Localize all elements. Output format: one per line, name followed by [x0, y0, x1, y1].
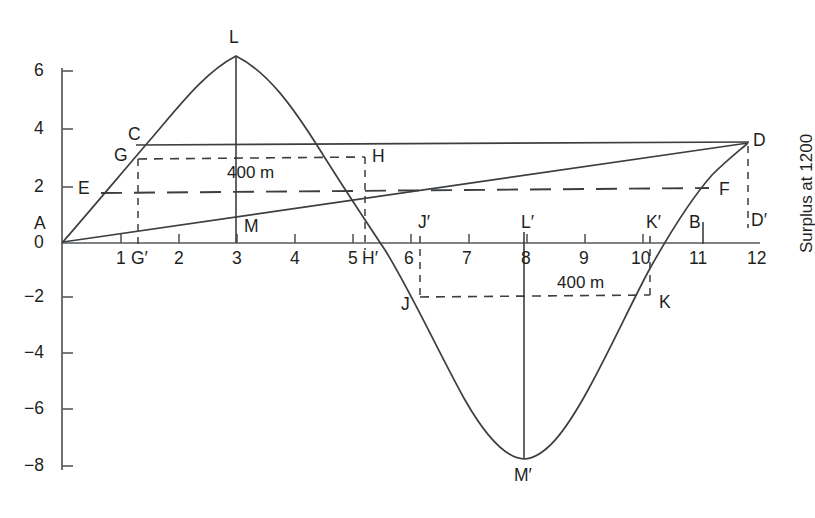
point-label-H: H	[372, 148, 385, 166]
y-tick-label-4: 4	[34, 120, 44, 138]
x-axis-ticks	[121, 234, 643, 243]
point-label-L: L	[229, 29, 239, 47]
y-tick-label-minus6: −6	[24, 400, 44, 418]
x-tick-label-9: 9	[579, 250, 589, 268]
point-label-H-prime: H′	[362, 250, 378, 268]
x-tick-label-12: 12	[747, 250, 766, 268]
point-label-M-prime: M′	[514, 467, 532, 485]
figure-root: 6 4 2 0 −2 −4 −6 −8 1 2 3 4 5 6 7 8 9 10…	[0, 0, 815, 518]
point-label-D-prime: D′	[751, 212, 767, 230]
point-label-B: B	[689, 214, 701, 232]
point-label-D: D	[753, 132, 766, 150]
point-label-G: G	[114, 147, 128, 165]
line-GH-dashed	[138, 157, 365, 159]
line-JK-dashed	[420, 295, 650, 297]
y-tick-label-minus4: −4	[24, 344, 44, 362]
x-tick-label-10: 10	[631, 250, 650, 268]
x-tick-label-8: 8	[521, 250, 531, 268]
point-label-E: E	[78, 180, 90, 198]
x-tick-label-11: 11	[689, 250, 707, 268]
point-label-F: F	[719, 181, 730, 199]
x-tick-label-1: 1	[116, 250, 126, 268]
annotation-400m-upper: 400 m	[227, 164, 274, 181]
annotation-400m-lower: 400 m	[557, 274, 604, 291]
point-label-L-prime: L′	[521, 214, 534, 232]
y-tick-label-0: 0	[34, 234, 44, 252]
x-tick-label-4: 4	[290, 250, 300, 268]
y-tick-label-2: 2	[34, 178, 44, 196]
y-tick-label-6: 6	[34, 62, 44, 80]
point-label-K: K	[659, 294, 671, 312]
point-label-C: C	[128, 126, 141, 144]
line-CD	[136, 142, 749, 145]
x-tick-label-3: 3	[232, 250, 242, 268]
point-label-J-prime: J′	[418, 214, 430, 232]
x-tick-label-7: 7	[462, 250, 472, 268]
y-tick-label-minus8: −8	[24, 457, 44, 475]
point-label-K-prime: K′	[646, 214, 661, 232]
point-label-M: M	[244, 218, 259, 236]
vertical-axis-title: Surplus at 1200	[798, 134, 815, 253]
point-label-J: J	[401, 296, 410, 314]
x-tick-label-2: 2	[174, 250, 184, 268]
y-tick-label-minus2: −2	[24, 288, 44, 306]
x-tick-label-6: 6	[404, 250, 414, 268]
x-tick-label-5: 5	[348, 250, 358, 268]
point-label-A: A	[34, 215, 46, 233]
point-label-G-prime: G′	[131, 250, 148, 268]
y-axis-ticks	[62, 71, 73, 466]
